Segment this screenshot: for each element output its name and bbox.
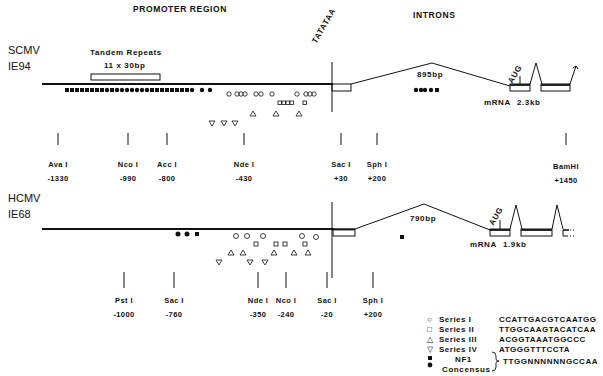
legend-series-2: □ Series II TTGGCAAGTACATCAA xyxy=(427,324,596,334)
legend-series-4: ▽ Series IV ATGGGTTTCCTA xyxy=(427,344,596,354)
nf1-label: NF1 xyxy=(455,355,472,364)
nf1-concensus-label: Concensus xyxy=(442,365,491,374)
triangle-down-icon: ▽ xyxy=(427,345,439,354)
triangle-up-icon: △ xyxy=(427,335,439,344)
square-icon: □ xyxy=(427,325,439,334)
legend-series-3: △ Series III ACGGTAAATGGCCC xyxy=(427,334,596,344)
legend: ○ Series I CCATTGACGTCAATGG □ Series II … xyxy=(427,314,596,354)
legend-series-1: ○ Series I CCATTGACGTCAATGG xyxy=(427,314,596,324)
circle-icon: ○ xyxy=(427,315,439,324)
nf1-sequence: TTGGNNNNNNGCCAA xyxy=(503,357,598,366)
